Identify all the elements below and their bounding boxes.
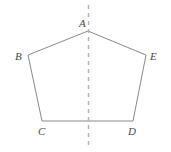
vertex-label-a: A [79, 18, 86, 29]
vertex-label-e: E [150, 51, 157, 62]
vertex-label-d: D [128, 126, 136, 137]
vertex-label-c: C [38, 126, 45, 137]
vertex-label-b: B [15, 51, 22, 62]
pentagon-outline [28, 31, 146, 121]
geometry-figure: A B C D E [0, 0, 171, 152]
